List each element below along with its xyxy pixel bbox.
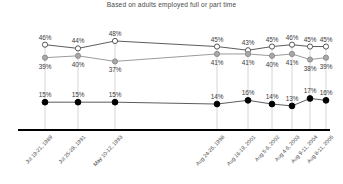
data-label: 48%	[109, 29, 122, 36]
data-label: 43%	[242, 39, 255, 46]
data-point-open-circle-series	[42, 42, 47, 47]
data-label: 39%	[320, 62, 333, 69]
chart-root: Based on adults employed full or part ti…	[0, 0, 343, 184]
series-line-black-circle-series	[45, 98, 326, 105]
data-label: 45%	[266, 35, 279, 42]
data-label: 15%	[72, 91, 85, 98]
data-label: 40%	[266, 60, 279, 67]
data-point-black-circle-series	[323, 97, 329, 103]
data-point-black-circle-series	[112, 99, 118, 105]
data-label: 45%	[320, 35, 333, 42]
data-label: 16%	[320, 89, 333, 96]
data-point-black-circle-series	[42, 99, 48, 105]
data-label: 14%	[211, 93, 224, 100]
data-label: 41%	[242, 58, 255, 65]
series-line-open-circle-series	[45, 41, 326, 50]
data-label: 17%	[304, 87, 317, 94]
data-label: 46%	[286, 33, 299, 40]
data-label: 39%	[39, 62, 52, 69]
data-point-gray-circle-series	[307, 57, 312, 62]
data-point-black-circle-series	[289, 103, 295, 109]
data-label: 45%	[211, 35, 224, 42]
data-point-gray-circle-series	[269, 53, 274, 58]
data-point-black-circle-series	[75, 99, 81, 105]
data-point-black-circle-series	[214, 101, 220, 107]
data-point-gray-circle-series	[289, 51, 294, 56]
data-label: 38%	[304, 64, 317, 71]
data-point-gray-circle-series	[75, 53, 80, 58]
data-point-open-circle-series	[112, 38, 117, 43]
series-line-gray-circle-series	[45, 54, 326, 61]
data-label: 37%	[109, 66, 122, 73]
data-label: 41%	[286, 58, 299, 65]
data-label: 16%	[242, 89, 255, 96]
data-point-gray-circle-series	[245, 51, 250, 56]
data-point-open-circle-series	[75, 46, 80, 51]
data-point-open-circle-series	[269, 44, 274, 49]
data-point-open-circle-series	[323, 44, 328, 49]
data-point-open-circle-series	[307, 44, 312, 49]
data-label: 15%	[39, 91, 52, 98]
data-label: 14%	[266, 93, 279, 100]
plot-area: 46%44%48%45%43%45%46%45%45%39%40%37%41%4…	[0, 0, 343, 184]
data-point-gray-circle-series	[42, 55, 47, 60]
data-label: 45%	[304, 35, 317, 42]
data-point-open-circle-series	[289, 42, 294, 47]
data-point-open-circle-series	[214, 44, 219, 49]
data-point-black-circle-series	[269, 101, 275, 107]
data-label: 15%	[109, 91, 122, 98]
data-point-gray-circle-series	[323, 55, 328, 60]
data-point-gray-circle-series	[214, 51, 219, 56]
data-label: 13%	[286, 94, 299, 101]
data-label: 46%	[39, 33, 52, 40]
data-point-black-circle-series	[245, 97, 251, 103]
data-label: 44%	[72, 37, 85, 44]
data-point-gray-circle-series	[112, 59, 117, 64]
data-point-black-circle-series	[307, 96, 313, 102]
data-label: 41%	[211, 58, 224, 65]
data-label: 40%	[72, 60, 85, 67]
